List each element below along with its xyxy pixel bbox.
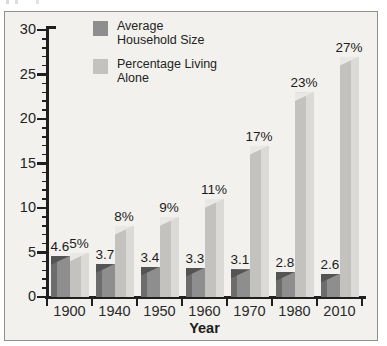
bar-bevel [276,272,295,281]
bar-bevel [340,57,359,66]
bar-bevel [321,274,340,283]
x-axis-title: Year [47,320,362,336]
y-axis-tick-label: 5 [4,244,36,260]
bar-data-label: 11% [195,182,234,197]
y-axis-tick-label: 25 [4,66,36,82]
bar-average-household-size-1970 [231,269,250,297]
bar-bevel [250,146,269,155]
bar-percentage-living-alone-1960 [205,199,224,297]
bar-data-label: 8% [105,209,144,224]
bar-bevel [51,256,70,265]
bar-average-household-size-1950 [141,267,160,297]
bar-bevel [295,92,314,101]
y-axis-tick-label: 15 [4,155,36,171]
bar-average-household-size-1900 [51,256,70,297]
bar-data-label: 17% [240,129,279,144]
x-axis-category-label: 1940 [92,303,137,319]
bar-bevel [186,268,205,277]
x-axis-category-label: 1960 [182,303,227,319]
bar-data-label: 9% [150,200,189,215]
y-axis-tick-label: 30 [4,21,36,37]
bar-average-household-size-1980 [276,272,295,297]
bar-bevel [115,226,134,235]
bar-bevel [160,217,179,226]
bar-average-household-size-2010 [321,274,340,297]
bar-bevel [231,269,250,278]
bar-data-label: 23% [285,75,324,90]
plot-area: 0510152025304.65%19003.78%19403.49%19503… [0,0,387,346]
y-axis-tick-label: 0 [4,288,36,304]
y-axis-tick-label: 20 [4,110,36,126]
bar-bevel [96,264,115,273]
x-axis-category-label: 1900 [47,303,92,319]
bar-data-label: 27% [330,40,369,55]
bar-bevel [205,199,224,208]
x-axis-category-label: 1970 [227,303,272,319]
y-axis-line [46,26,49,298]
x-axis-category-label: 1980 [272,303,317,319]
y-axis-tick-label: 10 [4,199,36,215]
bar-average-household-size-1960 [186,268,205,297]
bar-percentage-living-alone-1970 [250,146,269,297]
bar-average-household-size-1940 [96,264,115,297]
household-size-bar-chart: Average Household Size Percentage Living… [0,0,387,346]
x-axis-category-label: 1950 [137,303,182,319]
y-axis-top-cap [46,26,56,29]
bar-percentage-living-alone-2010 [340,57,359,297]
bar-bevel [141,267,160,276]
x-axis-category-label: 2010 [317,303,362,319]
